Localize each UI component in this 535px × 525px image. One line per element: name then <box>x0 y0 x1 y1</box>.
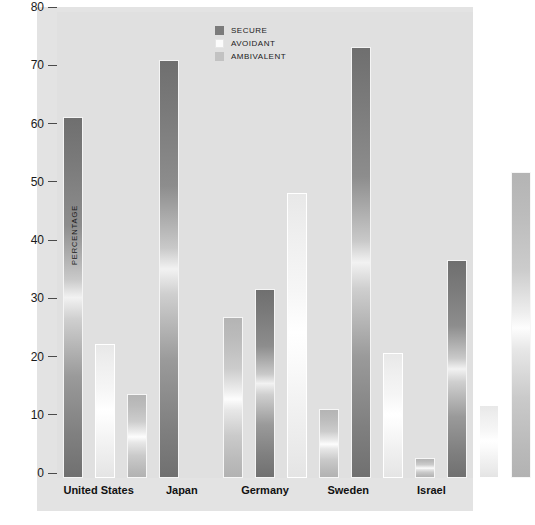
bar-group <box>249 12 345 478</box>
bar-ambivalent[interactable] <box>223 317 243 478</box>
legend-item-label: SECURE <box>231 27 267 35</box>
bar-slot <box>415 12 435 478</box>
y-axis-tick-mark <box>48 7 57 8</box>
y-axis-tick-mark <box>48 356 57 357</box>
y-axis: 01020304050607080 <box>0 7 57 473</box>
bar-secure[interactable] <box>351 47 371 478</box>
bar-avoidant[interactable] <box>95 344 115 478</box>
bar-slot <box>95 12 115 478</box>
y-axis-tick-label: 70 <box>31 59 48 71</box>
bar-group <box>345 12 441 478</box>
bar-groups <box>57 12 473 478</box>
bar-ambivalent[interactable] <box>511 172 531 478</box>
legend-swatch-icon <box>215 39 224 48</box>
bar-slot <box>447 12 467 478</box>
bar-avoidant[interactable] <box>383 353 403 478</box>
y-axis-tick-mark <box>48 473 57 474</box>
y-axis-tick-label: 0 <box>37 467 48 479</box>
bar-slot <box>191 12 211 478</box>
x-axis-category-label: Sweden <box>307 484 390 496</box>
bar-slot <box>511 12 531 478</box>
y-axis-tick-label: 10 <box>31 409 48 421</box>
legend-item[interactable]: SECURE <box>215 25 286 36</box>
y-axis-tick-label: 80 <box>31 1 48 13</box>
bar-slot <box>127 12 147 478</box>
legend-item[interactable]: AMBIVALENT <box>215 51 286 62</box>
y-axis-title: PERCENTAGE <box>70 205 79 265</box>
bar-ambivalent[interactable] <box>415 458 435 478</box>
bar-slot <box>159 12 179 478</box>
bar-slot <box>383 12 403 478</box>
legend-swatch-icon <box>215 52 224 61</box>
bar-ambivalent[interactable] <box>319 409 339 478</box>
y-axis-tick-label: 30 <box>31 292 48 304</box>
bar-secure[interactable] <box>63 117 83 478</box>
bar-ambivalent[interactable] <box>127 394 147 478</box>
y-axis-tick-mark <box>48 181 57 182</box>
y-axis-tick-mark <box>48 123 57 124</box>
y-axis-tick-mark <box>48 298 57 299</box>
bar-slot <box>287 12 307 478</box>
y-axis-tick-label: 60 <box>31 118 48 130</box>
y-axis-tick-mark <box>48 240 57 241</box>
x-axis-category-label: Japan <box>140 484 223 496</box>
legend-item-label: AMBIVALENT <box>231 53 286 61</box>
bar-secure[interactable] <box>159 60 179 478</box>
bar-avoidant[interactable] <box>479 405 499 478</box>
bar-avoidant[interactable] <box>287 193 307 478</box>
x-axis-category-label: Israel <box>390 484 473 496</box>
bar-group <box>153 12 249 478</box>
bar-slot <box>319 12 339 478</box>
plot-area <box>57 12 473 478</box>
bar-group <box>441 12 535 478</box>
legend-item-label: AVOIDANT <box>231 40 275 48</box>
bar-secure[interactable] <box>255 289 275 478</box>
bar-slot <box>255 12 275 478</box>
chart-legend: SECUREAVOIDANTAMBIVALENT <box>215 25 286 62</box>
x-axis-category-label: Germany <box>223 484 306 496</box>
bar-slot <box>223 12 243 478</box>
bar-slot <box>351 12 371 478</box>
legend-swatch-icon <box>215 26 224 35</box>
x-axis-category-label: United States <box>57 484 140 496</box>
bar-secure[interactable] <box>447 260 467 478</box>
y-axis-tick-mark <box>48 65 57 66</box>
y-axis-tick-label: 50 <box>31 176 48 188</box>
x-axis-categories: United StatesJapanGermanySwedenIsrael <box>57 484 473 496</box>
y-axis-tick-label: 20 <box>31 351 48 363</box>
y-axis-tick-label: 40 <box>31 234 48 246</box>
bar-slot <box>479 12 499 478</box>
legend-item[interactable]: AVOIDANT <box>215 38 286 49</box>
y-axis-tick-mark <box>48 414 57 415</box>
